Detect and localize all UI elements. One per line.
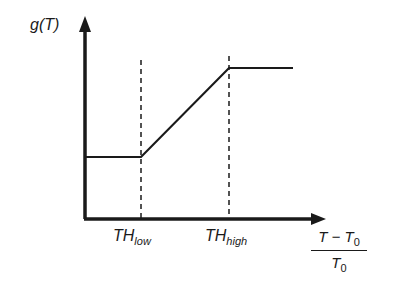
x-axis-label-denominator: T0 <box>311 251 367 274</box>
g-curve <box>85 68 293 157</box>
x-axis-label-numerator: T − T0 <box>311 228 367 251</box>
y-axis-arrow-icon <box>79 16 91 32</box>
y-axis-label: g(T) <box>30 16 59 34</box>
x-axis-arrow-icon <box>311 213 326 225</box>
threshold-low-label: THlow <box>113 227 151 247</box>
x-axis-label: T − T0 T0 <box>311 228 367 274</box>
threshold-high-label: THhigh <box>205 227 247 247</box>
